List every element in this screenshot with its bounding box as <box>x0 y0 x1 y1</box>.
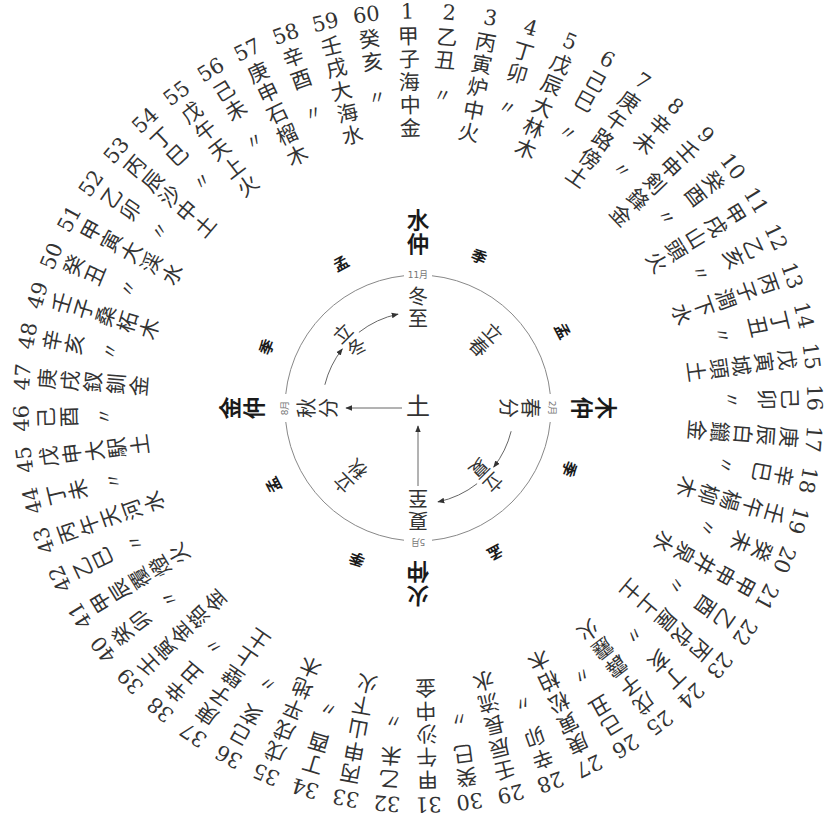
nayin-char: 木 <box>136 315 165 342</box>
ring-entry: 3丙寅炉中火 <box>456 4 502 146</box>
ring-entry: 17庚辰白鑞金 <box>684 416 827 454</box>
season-marker: 季 <box>558 459 580 480</box>
ditto-mark: 〃 <box>569 662 595 689</box>
ditto-mark: 〃 <box>115 276 141 301</box>
ganzhi-char: 乙 <box>436 25 459 51</box>
ganzhi-char: 子 <box>398 47 420 72</box>
entry-number: 47 <box>10 363 36 392</box>
ganzhi-char: 卯 <box>754 388 779 410</box>
nayin-char: 白 <box>730 422 756 445</box>
ganzhi-char: 巳 <box>747 459 774 484</box>
nayin-char: 木 <box>672 474 701 501</box>
element-label: 仲 <box>407 232 429 257</box>
ganzhi-char: 庚 <box>776 426 802 449</box>
solar-term: 春 <box>518 398 542 418</box>
ditto-mark: 〃 <box>122 530 149 555</box>
nayin-char: 中 <box>399 93 421 118</box>
seasons-core: 水仲11月冬至木仲2月春分火仲5月夏至金仲8月秋分立春立夏立秋立冬季孟季孟季孟季… <box>218 208 618 608</box>
nayin-circle-diagram: 1甲子海中金2乙丑〃3丙寅炉中火4丁卯〃5戊辰大林木6己巳〃7庚午路傍土8辛未〃… <box>0 0 832 823</box>
element-label: 仲 <box>242 397 267 419</box>
ganzhi-char: 丑 <box>743 314 771 340</box>
nayin-char: 海 <box>399 70 421 95</box>
ring-entry: 15戊寅城頭土 <box>681 341 824 386</box>
month-label: 2月 <box>547 401 557 416</box>
season-marker-label: 孟 <box>483 540 505 563</box>
ganzhi-char: 甲 <box>397 24 419 49</box>
arc-spring-to-summer-start <box>494 431 511 467</box>
solar-term: 分 <box>317 398 341 418</box>
season-marker-label: 季 <box>256 337 278 358</box>
ditto-mark: 〃 <box>94 407 115 426</box>
entry-number: 15 <box>797 341 824 371</box>
nayin-char: 土 <box>128 433 155 457</box>
season-marker: 季 <box>469 246 490 268</box>
entry-number: 48 <box>14 320 42 351</box>
nayin-char: 中 <box>415 698 437 723</box>
ditto-mark: 〃 <box>449 707 470 730</box>
ring-entry: 32乙未〃 <box>373 709 408 816</box>
element-label: 金 <box>218 396 243 420</box>
nayin-char: 水 <box>470 666 496 694</box>
ganzhi-char: 甲 <box>417 767 439 792</box>
ditto-mark: 〃 <box>188 167 216 195</box>
arc-winter-start-to-solstice <box>359 314 398 332</box>
ditto-mark: 〃 <box>433 84 453 106</box>
season-marker: 季 <box>256 337 278 358</box>
season-marker: 孟 <box>483 540 505 563</box>
ditto-mark: 〃 <box>620 622 648 650</box>
month-label: 8月 <box>280 401 290 416</box>
season-marker-label: 孟 <box>331 253 353 276</box>
entry-number: 46 <box>9 405 34 432</box>
nayin-char: 鑞 <box>707 420 733 443</box>
intercardinal-term: 立春 <box>464 319 507 362</box>
month-label: 5月 <box>411 537 426 547</box>
ditto-mark: 〃 <box>317 696 340 721</box>
ganzhi-char: 巳 <box>452 740 476 767</box>
ditto-mark: 〃 <box>653 204 681 231</box>
season-marker: 季 <box>347 548 368 570</box>
intercardinal-term: 立冬 <box>329 319 372 362</box>
entry-number: 18 <box>794 465 822 496</box>
solar-term: 冬 <box>408 285 428 309</box>
nayin-char: 釧 <box>104 373 130 396</box>
ditto-mark: 〃 <box>663 572 691 599</box>
cardinal-east: 木仲2月春分 <box>496 394 619 422</box>
ganzhi-char: 己 <box>34 407 59 429</box>
ganzhi-char: 辰 <box>753 424 779 447</box>
solar-term: 至 <box>408 307 428 331</box>
arc-summer-start-to-solstice <box>438 484 477 502</box>
ganzhi-char: 己 <box>777 387 802 409</box>
diagram-canvas: 1甲子海中金2乙丑〃3丙寅炉中火4丁卯〃5戊辰大林木6己巳〃7庚午路傍土8辛未〃… <box>0 0 832 823</box>
solar-term: 夏 <box>408 508 428 532</box>
ditto-mark: 〃 <box>155 585 183 612</box>
center-earth-label: 土 <box>406 393 430 421</box>
ditto-mark: 〃 <box>495 95 518 120</box>
nayin-char: 火 <box>355 669 380 696</box>
ganzhi-char: 未 <box>379 743 402 769</box>
ditto-mark: 〃 <box>608 156 635 184</box>
arc-autumn-to-winter-start <box>325 349 342 385</box>
ring-entry: 45戊申大駅土 <box>11 430 154 475</box>
season-marker-label: 季 <box>347 548 368 570</box>
entry-number: 30 <box>455 787 485 814</box>
ganzhi-char: 未 <box>65 476 93 502</box>
nayin-char: 釵 <box>81 371 107 394</box>
ganzhi-char: 庚 <box>35 367 61 390</box>
month-label: 11月 <box>408 270 428 280</box>
nayin-char: 水 <box>340 122 366 150</box>
entry-number: 5 <box>559 28 581 55</box>
nayin-char: 金 <box>415 675 437 700</box>
ditto-mark: 〃 <box>555 119 581 146</box>
ring-entry: 31甲午沙中金 <box>412 675 442 817</box>
ganzhi-char: 乙 <box>377 766 400 792</box>
entry-number: 3 <box>481 5 499 31</box>
nayin-char: 火 <box>456 119 481 146</box>
element-label: 木 <box>593 396 618 420</box>
intercardinal-term: 立秋 <box>329 454 372 497</box>
ditto-mark: 〃 <box>201 633 228 661</box>
ditto-mark: 〃 <box>98 340 122 362</box>
element-label: 仲 <box>407 559 429 584</box>
ring-entry: 46己酉〃 <box>9 403 115 432</box>
solar-term: 秋 <box>295 398 319 418</box>
entry-number: 32 <box>373 790 402 816</box>
